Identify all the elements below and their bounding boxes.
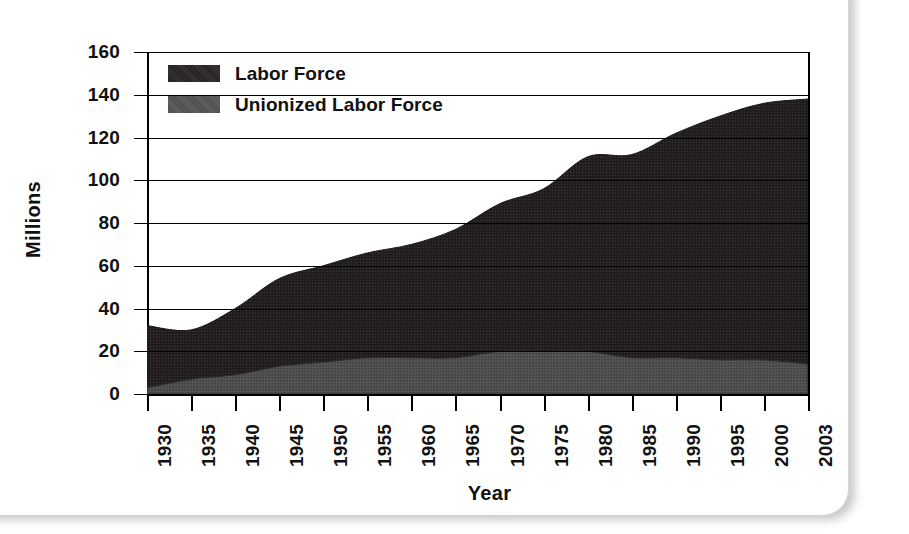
y-tick-20: [134, 351, 147, 352]
x-axis-label-1965: 1965: [462, 424, 484, 467]
gridline-160: [147, 52, 808, 53]
labor-force-area-chart: Millions 160140120100806040200: [0, 0, 909, 534]
y-tick-60: [134, 266, 147, 267]
x-tick-1985: [632, 394, 634, 411]
gridline-40: [147, 309, 808, 310]
x-tick-1955: [367, 394, 369, 411]
x-axis-label-1985: 1985: [639, 424, 661, 467]
gridline-80: [147, 223, 808, 224]
x-tick-1980: [588, 394, 590, 411]
x-axis-label-2003: 2003: [815, 424, 837, 467]
x-tick-1995: [720, 394, 722, 411]
y-axis-label-0: 0: [32, 383, 120, 405]
x-axis-label-1975: 1975: [551, 424, 573, 467]
x-tick-1965: [455, 394, 457, 411]
x-tick-1935: [191, 394, 193, 411]
x-tick-1960: [411, 394, 413, 411]
x-tick-1945: [279, 394, 281, 411]
x-tick-1970: [500, 394, 502, 411]
x-tick-2003: [808, 394, 810, 411]
y-axis-label-120: 120: [32, 127, 120, 149]
x-axis-label-1955: 1955: [374, 424, 396, 467]
y-tick-40: [134, 309, 147, 310]
x-tick-1975: [544, 394, 546, 411]
x-axis-label-1935: 1935: [198, 424, 220, 467]
x-axis-label-1990: 1990: [683, 424, 705, 467]
gridline-100: [147, 180, 808, 181]
x-tick-1950: [323, 394, 325, 411]
y-tick-100: [134, 180, 147, 181]
y-axis-label-20: 20: [32, 340, 120, 362]
gridline-120: [147, 138, 808, 139]
x-tick-1940: [235, 394, 237, 411]
x-axis-label-1940: 1940: [242, 424, 264, 467]
y-tick-120: [134, 138, 147, 139]
x-axis-title-text: Year: [468, 482, 511, 504]
x-axis-label-1930: 1930: [154, 424, 176, 467]
x-tick-1990: [676, 394, 678, 411]
legend-swatch-unionized-labor-force: [168, 96, 220, 113]
chart-legend: Labor Force Unionized Labor Force: [168, 60, 443, 122]
x-axis-label-1970: 1970: [507, 424, 529, 467]
gridline-20: [147, 351, 808, 352]
area-labor-force: [147, 99, 808, 394]
gridline-60: [147, 266, 808, 267]
y-axis-label-60: 60: [32, 255, 120, 277]
x-axis-label-1950: 1950: [330, 424, 352, 467]
x-tick-2000: [764, 394, 766, 411]
y-tick-80: [134, 223, 147, 224]
x-axis-label-2000: 2000: [771, 424, 793, 467]
legend-label-unionized-labor-force: Unionized Labor Force: [235, 94, 443, 116]
y-axis-label-160: 160: [32, 41, 120, 63]
y-axis-label-40: 40: [32, 298, 120, 320]
x-axis-line: [147, 394, 808, 396]
legend-label-labor-force: Labor Force: [235, 63, 346, 85]
x-axis-label-1995: 1995: [727, 424, 749, 467]
x-tick-1930: [147, 394, 149, 411]
y-tick-0: [134, 394, 147, 395]
legend-item-unionized-labor-force: Unionized Labor Force: [168, 91, 443, 118]
legend-item-labor-force: Labor Force: [168, 60, 443, 87]
x-axis-title: Year: [0, 482, 909, 505]
x-axis-label-1945: 1945: [286, 424, 308, 467]
x-axis-label-1960: 1960: [418, 424, 440, 467]
y-tick-160: [134, 52, 147, 53]
plot-right-border: [808, 52, 810, 394]
y-tick-140: [134, 95, 147, 96]
x-axis-label-1980: 1980: [595, 424, 617, 467]
legend-swatch-labor-force: [168, 65, 220, 82]
y-axis-label-80: 80: [32, 212, 120, 234]
y-axis-label-100: 100: [32, 169, 120, 191]
y-axis-label-140: 140: [32, 84, 120, 106]
